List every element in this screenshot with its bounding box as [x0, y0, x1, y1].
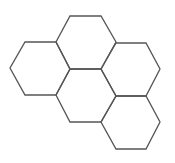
background: [0, 0, 175, 163]
hexagon-diagram: [0, 0, 175, 163]
